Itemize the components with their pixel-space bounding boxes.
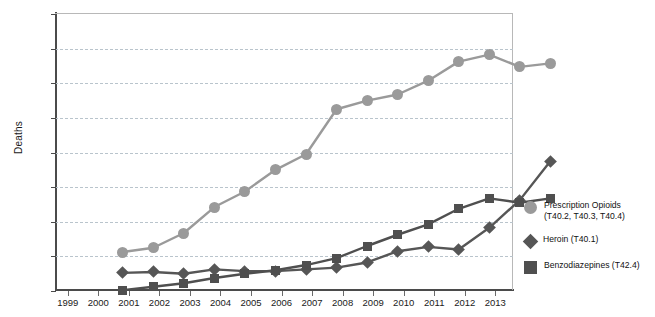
- legend-label: Heroin (T40.1): [543, 234, 598, 245]
- circle-icon: [524, 201, 537, 214]
- legend-label: Benzodiazepines (T42.4): [544, 260, 640, 271]
- series-layer: [110, 27, 568, 304]
- data-point-square: [515, 198, 524, 207]
- chart-figure: Deaths 02,0004,0006,0008,00010,00012,000…: [0, 0, 655, 317]
- x-tick-mark: [343, 291, 344, 296]
- legend-label: Prescription Opioids(T40.2, T40.3, T40.4…: [544, 200, 625, 221]
- data-point-circle: [362, 95, 373, 106]
- x-tick-mark: [190, 291, 191, 296]
- data-point-circle: [178, 228, 189, 239]
- data-point-circle: [484, 49, 495, 60]
- legend-label-line2: (T40.2, T40.3, T40.4): [544, 211, 625, 222]
- data-point-square: [210, 274, 219, 283]
- data-point-circle: [148, 242, 159, 253]
- data-point-circle: [545, 58, 556, 69]
- x-tick-mark: [129, 291, 130, 296]
- y-tick-mark: [51, 256, 56, 257]
- data-point-circle: [301, 149, 312, 160]
- chart-legend: Prescription Opioids(T40.2, T40.3, T40.4…: [524, 200, 655, 287]
- x-tick-mark: [495, 291, 496, 296]
- legend-item[interactable]: Prescription Opioids(T40.2, T40.3, T40.4…: [524, 200, 655, 221]
- x-tick-mark: [98, 291, 99, 296]
- x-tick-mark: [312, 291, 313, 296]
- data-point-square: [485, 194, 494, 203]
- y-tick-mark: [51, 49, 56, 50]
- y-tick-mark: [51, 222, 56, 223]
- x-tick-mark: [220, 291, 221, 296]
- data-point-square: [393, 230, 402, 239]
- legend-label-line1: Benzodiazepines (T42.4): [544, 260, 640, 271]
- data-point-square: [118, 286, 127, 295]
- x-tick-mark: [251, 291, 252, 296]
- x-tick-mark: [68, 291, 69, 296]
- data-point-square: [302, 261, 311, 270]
- legend-item[interactable]: Heroin (T40.1): [524, 234, 655, 247]
- y-tick-mark: [51, 14, 56, 15]
- data-point-circle: [209, 202, 220, 213]
- x-tick-mark: [282, 291, 283, 296]
- legend-label-line1: Prescription Opioids: [544, 200, 625, 211]
- square-icon: [524, 261, 537, 274]
- diamond-icon: [523, 234, 539, 250]
- data-point-square: [179, 279, 188, 288]
- x-tick-mark: [465, 291, 466, 296]
- legend-label-line1: Heroin (T40.1): [543, 234, 598, 245]
- data-point-square: [454, 204, 463, 213]
- plot-area: 02,0004,0006,0008,00010,00012,00014,0001…: [55, 13, 513, 290]
- data-point-square: [332, 254, 341, 263]
- x-tick-mark: [434, 291, 435, 296]
- y-axis-title: Deaths: [13, 108, 24, 168]
- data-point-square: [149, 282, 158, 291]
- legend-item[interactable]: Benzodiazepines (T42.4): [524, 260, 655, 274]
- x-tick-mark: [373, 291, 374, 296]
- data-point-circle: [117, 247, 128, 258]
- y-tick-mark: [51, 118, 56, 119]
- x-tick-mark: [404, 291, 405, 296]
- y-tick-mark: [51, 291, 56, 292]
- y-tick-mark: [51, 187, 56, 188]
- y-tick-mark: [51, 153, 56, 154]
- data-point-square: [240, 269, 249, 278]
- series-line: [123, 55, 550, 252]
- y-tick-mark: [51, 83, 56, 84]
- data-point-circle: [423, 75, 434, 86]
- data-point-square: [363, 242, 372, 251]
- data-point-square: [424, 220, 433, 229]
- x-tick-mark: [159, 291, 160, 296]
- data-point-circle: [331, 104, 342, 115]
- x-tick-label: 2013: [475, 297, 515, 308]
- data-point-square: [271, 266, 280, 275]
